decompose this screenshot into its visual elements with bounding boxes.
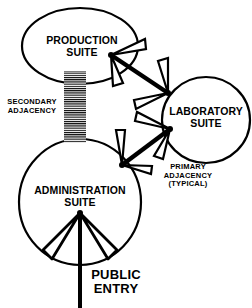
- production-suite-label: PRODUCTION SUITE: [44, 34, 120, 58]
- secondary-adjacency-hatch: [64, 71, 86, 143]
- public-entry-label: PUBLIC ENTRY: [88, 268, 144, 297]
- administration-suite-label-line1: ADMINISTRATION: [30, 184, 130, 196]
- laboratory-suite-label-line2: SUITE: [168, 117, 244, 129]
- laboratory-suite-label: LABORATORY SUITE: [168, 105, 244, 129]
- public-entry-label-line1: PUBLIC: [88, 268, 144, 282]
- administration-suite-label-line2: SUITE: [30, 196, 130, 208]
- primary-adjacency-label: PRIMARY ADJACENCY (TYPICAL): [160, 163, 216, 189]
- laboratory-suite-label-line1: LABORATORY: [168, 105, 244, 117]
- secondary-adjacency-label: SECONDARY ADJACENCY: [4, 98, 60, 115]
- primary-adjacency-label-line3: (TYPICAL): [160, 180, 216, 189]
- production-suite-label-line1: PRODUCTION: [44, 34, 120, 46]
- adjacency-diagram: [0, 0, 252, 308]
- administration-suite-label: ADMINISTRATION SUITE: [30, 184, 130, 208]
- secondary-adjacency-label-line2: ADJACENCY: [4, 107, 60, 116]
- production-suite-label-line2: SUITE: [44, 46, 120, 58]
- public-entry-label-line2: ENTRY: [88, 282, 144, 296]
